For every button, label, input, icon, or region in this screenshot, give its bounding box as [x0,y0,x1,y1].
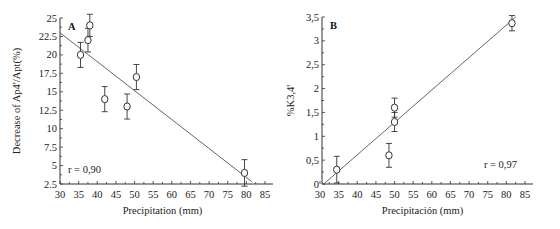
data-point [391,112,397,131]
y-tick-label: 2.5 [44,179,57,190]
x-tick-label: 40 [92,189,103,200]
y-tick-label: 2 [314,83,319,94]
x-tick-label: 85 [520,189,531,200]
y-tick-label: 1,5 [306,107,319,118]
x-axis-label: Precipitation (mm) [123,205,203,217]
data-point [386,143,392,167]
chart-panel-b: 30354045505560657075808500,511,522,533,5… [285,12,533,218]
x-tick-label: 35 [333,189,344,200]
x-tick-label: 55 [148,189,159,200]
y-tick-label: 7.5 [44,142,57,153]
y-tick-label: 5 [52,160,57,171]
x-tick-label: 60 [167,189,178,200]
x-tick-label: 60 [427,189,438,200]
x-tick-label: 30 [315,189,326,200]
y-axis-label: Decrease of Ap4'/Apt(%) [11,47,23,154]
x-tick-label: 55 [408,189,419,200]
y-tick-label: 0,5 [306,155,319,166]
y-tick-label: 1 [314,131,319,142]
x-tick-label: 50 [129,189,140,200]
y-tick-label: 10 [47,123,58,134]
y-axis-label: %K3,4' [285,85,296,116]
y-tick-label: 15 [47,86,58,97]
x-tick-label: 65 [185,189,196,200]
y-tick-label: 3 [314,35,319,46]
x-tick-label: 70 [204,189,215,200]
x-tick-label: 65 [445,189,456,200]
y-tick-label: 12.5 [39,105,57,116]
y-tick-label: 25 [47,13,58,24]
panel-label: B [330,20,337,31]
x-tick-label: 85 [260,189,271,200]
x-tick-label: 80 [241,189,252,200]
y-tick-label: 17.5 [39,68,57,79]
y-tick-label: 20 [47,49,58,60]
data-point [334,156,340,183]
x-tick-label: 80 [501,189,512,200]
data-point [124,94,130,119]
x-tick-label: 50 [389,189,400,200]
y-tick-label: 0 [314,179,319,190]
x-tick-label: 45 [111,189,122,200]
x-tick-label: 70 [464,189,475,200]
y-tick-label: 2,5 [306,59,319,70]
regression-line [60,33,252,182]
correlation-annotation: r = 0,97 [484,159,517,170]
x-tick-label: 30 [55,189,66,200]
data-point [77,42,83,67]
data-point [133,64,139,89]
figure: 3035404550556065707580852.557.51012.5151… [0,0,560,229]
x-tick-label: 40 [352,189,363,200]
x-tick-label: 35 [73,189,84,200]
correlation-annotation: r = 0,90 [68,164,101,175]
chart-panel-a: 3035404550556065707580852.557.51012.5151… [11,13,273,218]
x-axis-label: Precipitación (mm) [382,205,464,217]
x-tick-label: 75 [482,189,493,200]
x-tick-label: 75 [222,189,233,200]
y-tick-label: 22.5 [39,31,57,42]
y-tick-label: 3,5 [306,12,319,23]
data-point [102,87,108,112]
panel-label: A [68,21,76,32]
x-tick-label: 45 [371,189,382,200]
